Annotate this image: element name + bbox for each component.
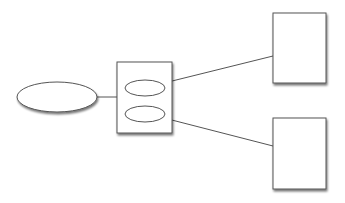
connector-inner-ellipse-top-to-target-box-top: [164, 56, 273, 83]
inner-ellipse-bottom: [125, 106, 165, 122]
inner-ellipse-top: [125, 80, 165, 96]
diagram-canvas: [0, 0, 345, 203]
target-box-bottom: [273, 118, 326, 189]
connector-inner-ellipse-bottom-to-target-box-bottom: [164, 118, 273, 146]
nodes-layer: [17, 13, 326, 189]
target-box-top: [273, 13, 326, 83]
source-ellipse: [17, 82, 97, 112]
